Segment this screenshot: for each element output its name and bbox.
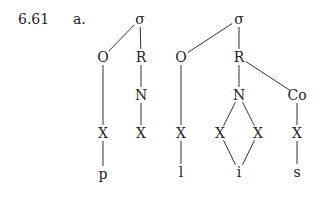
tree-node-i: i	[237, 165, 241, 179]
tree-edge	[188, 23, 233, 52]
tree-node-s: s	[293, 165, 300, 179]
tree-node-p: p	[99, 167, 108, 181]
tree-node-co: Co	[287, 88, 306, 102]
tree-node-xa: X	[215, 126, 225, 140]
tree-node-r1: R	[136, 50, 147, 64]
tree-node-o2: O	[175, 50, 186, 64]
tree-node-xo1: X	[98, 126, 108, 140]
tree-edge	[243, 140, 255, 165]
tree-edge	[224, 140, 236, 165]
tree-node-n1: N	[135, 88, 147, 102]
tree-edges	[0, 0, 321, 199]
tree-node-xc: X	[292, 126, 302, 140]
tree-edge	[246, 61, 291, 90]
tree-node-xn1: X	[136, 126, 146, 140]
tree-node-s1: σ	[135, 12, 145, 26]
tree-node-o1: O	[97, 50, 108, 64]
tree-node-l: l	[179, 165, 183, 179]
tree-node-xo2: X	[176, 126, 186, 140]
tree-node-xb: X	[253, 126, 263, 140]
tree-edge	[224, 102, 236, 126]
tree-edge	[243, 102, 255, 126]
tree-edge	[140, 27, 141, 49]
tree-edge	[109, 25, 135, 52]
tree-node-n2: N	[233, 88, 245, 102]
tree-node-r2: R	[234, 50, 245, 64]
tree-node-s2: σ	[234, 12, 244, 26]
